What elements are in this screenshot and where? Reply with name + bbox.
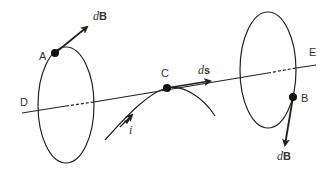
biot-savart-diagram: A B C D E i dB ds dB xyxy=(0,0,329,174)
point-a-dot xyxy=(51,49,59,57)
label-d: D xyxy=(20,96,28,108)
left-field-loop xyxy=(38,47,94,163)
label-dB-at-B: dB xyxy=(277,149,291,163)
label-dB-at-A: dB xyxy=(93,9,107,23)
right-field-loop xyxy=(240,12,296,128)
dB-b-vector: B xyxy=(283,150,291,162)
axis-line-segment-middle xyxy=(94,73,268,102)
current-wire xyxy=(105,87,215,140)
dB-arrow-at-A xyxy=(55,27,87,53)
label-c: C xyxy=(161,67,169,79)
dB-a-vector: B xyxy=(99,10,107,22)
point-b-dot xyxy=(289,93,297,101)
ds-vector: s xyxy=(204,64,210,76)
label-e: E xyxy=(309,46,316,58)
point-c-dot xyxy=(163,84,171,92)
label-a: A xyxy=(39,50,47,62)
dB-arrow-at-B xyxy=(285,97,293,145)
axis-line-dashed-left xyxy=(66,102,94,106)
label-ds: ds xyxy=(198,63,210,77)
axis-line-dashed-right xyxy=(268,68,296,73)
axis-line-segment-right xyxy=(296,65,316,68)
axis-line-segment-left xyxy=(22,106,66,113)
label-b: B xyxy=(301,92,308,104)
label-current: i xyxy=(129,123,132,137)
